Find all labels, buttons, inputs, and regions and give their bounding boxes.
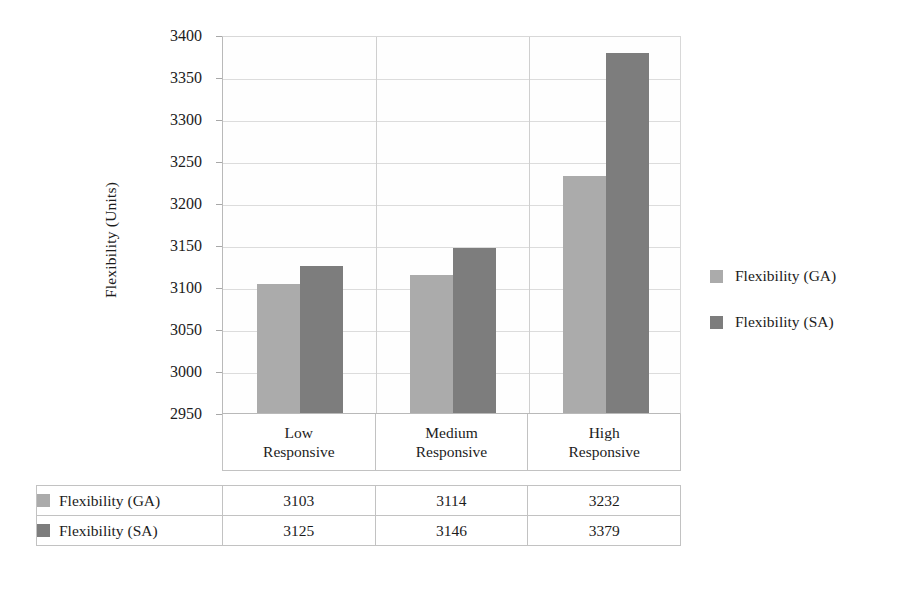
bar-ga-0: [257, 284, 300, 413]
table-series-label-text: Flexibility (SA): [59, 522, 158, 539]
table-cell-value: 3146: [375, 516, 528, 546]
category-label-1: MediumResponsive: [376, 414, 529, 470]
legend-swatch-icon: [710, 316, 723, 329]
y-axis-tick-label: 3150: [132, 238, 202, 254]
category-label-0: LowResponsive: [223, 414, 376, 470]
y-axis-tick-label: 3100: [132, 280, 202, 296]
bar-ga-2: [563, 176, 606, 413]
table-cell-value: 3379: [528, 516, 681, 546]
table-cell-value: 3125: [222, 516, 375, 546]
legend-item-label: Flexibility (GA): [735, 267, 836, 285]
bar-sa-2: [606, 53, 649, 413]
table-row: Flexibility (GA)310331143232: [37, 486, 681, 516]
y-axis-tick-label: 3000: [132, 364, 202, 380]
category-label-2: HighResponsive: [528, 414, 680, 470]
y-axis-tick-label: 3200: [132, 196, 202, 212]
y-axis-tick-label: 2950: [132, 406, 202, 422]
chart-data-table: Flexibility (GA)310331143232Flexibility …: [36, 485, 681, 546]
y-axis-tick-label: 3050: [132, 322, 202, 338]
category-axis-row: LowResponsiveMediumResponsiveHighRespons…: [222, 414, 681, 471]
category-separator: [376, 37, 377, 413]
table-series-label: Flexibility (GA): [37, 486, 223, 516]
chart-legend: Flexibility (GA)Flexibility (SA): [710, 265, 836, 357]
bar-chart-figure: Flexibility (Units) 29503000305031003150…: [0, 0, 911, 601]
table-cell-value: 3232: [528, 486, 681, 516]
y-axis-tick-label: 3400: [132, 28, 202, 44]
y-axis-tick-label: 3350: [132, 70, 202, 86]
plot-area: [222, 36, 681, 414]
y-axis-tick-label: 3250: [132, 154, 202, 170]
category-label-text: HighResponsive: [568, 423, 639, 461]
bar-sa-0: [300, 266, 343, 413]
bar-ga-1: [410, 275, 453, 413]
table-cell-value: 3114: [375, 486, 528, 516]
legend-swatch-icon: [37, 494, 50, 507]
table-cell-value: 3103: [222, 486, 375, 516]
legend-swatch-icon: [37, 524, 50, 537]
chart-data-table-body: Flexibility (GA)310331143232Flexibility …: [37, 486, 681, 546]
legend-item-ga[interactable]: Flexibility (GA): [710, 265, 836, 287]
legend-item-sa[interactable]: Flexibility (SA): [710, 311, 836, 333]
table-series-label: Flexibility (SA): [37, 516, 223, 546]
table-row: Flexibility (SA)312531463379: [37, 516, 681, 546]
category-label-text: LowResponsive: [263, 423, 334, 461]
table-series-label-text: Flexibility (GA): [59, 492, 160, 509]
legend-item-label: Flexibility (SA): [735, 313, 834, 331]
y-axis-tick-label: 3300: [132, 112, 202, 128]
legend-swatch-icon: [710, 270, 723, 283]
y-axis-title: Flexibility (Units): [102, 140, 126, 340]
category-label-text: MediumResponsive: [416, 423, 487, 461]
category-separator: [529, 37, 530, 413]
bar-sa-1: [453, 248, 496, 413]
